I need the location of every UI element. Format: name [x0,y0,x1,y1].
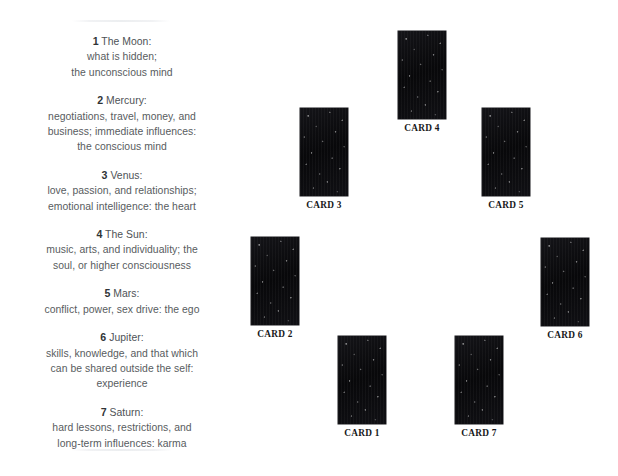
meaning-heading: 2 Mercury: [18,93,226,108]
tarot-card-slot[interactable]: CARD 1 [338,336,386,438]
meaning-heading: 1 The Moon: [18,34,226,49]
tarot-card-slot[interactable]: CARD 5 [482,108,530,210]
starfield-card-back-icon[interactable] [482,108,530,196]
meaning-title: Venus: [110,170,142,181]
tarot-card-slot[interactable]: CARD 6 [541,238,589,340]
meaning-description-line: the unconscious mind [18,65,226,80]
meaning-number: 5 [104,287,110,299]
starfield-card-back-icon[interactable] [398,31,446,119]
meaning-number: 2 [97,94,103,106]
tarot-spread-diagram: 1 The Moon:what is hidden;the unconsciou… [0,0,618,476]
starfield-card-back-icon[interactable] [251,237,299,325]
meaning-number: 6 [100,331,106,343]
tarot-card-slot[interactable]: CARD 3 [300,108,348,210]
card-label: CARD 5 [482,200,530,210]
meaning-entry: 2 Mercury:negotiations, travel, money, a… [18,93,226,155]
meaning-description-line: what is hidden; [18,49,226,64]
card-label: CARD 7 [455,428,503,438]
meaning-description-line: conflict, power, sex drive: the ego [18,302,226,317]
meaning-description-line: hard lessons, restrictions, and [18,420,226,435]
meaning-heading: 3 Venus: [18,168,226,183]
meaning-description-line: emotional intelligence: the heart [18,199,226,214]
card-meanings-panel: 1 The Moon:what is hidden;the unconsciou… [18,0,226,476]
meaning-title: Jupiter: [109,332,143,343]
card-label: CARD 6 [541,330,589,340]
meaning-entry: 7 Saturn:hard lessons, restrictions, and… [18,405,226,451]
meaning-entry: 6 Jupiter:skills, knowledge, and that wh… [18,330,226,392]
starfield-card-back-icon[interactable] [338,336,386,424]
meaning-description-line: skills, knowledge, and that which [18,346,226,361]
meaning-title: The Sun: [105,229,148,240]
card-label: CARD 1 [338,428,386,438]
meaning-description-line: business; immediate influences: [18,124,226,139]
meaning-title: Mercury: [106,95,147,106]
meaning-description-line: music, arts, and individuality; the [18,242,226,257]
meaning-title: The Moon: [101,36,151,47]
meaning-description-line: the conscious mind [18,139,226,154]
tarot-card-slot[interactable]: CARD 2 [251,237,299,339]
card-label: CARD 2 [251,329,299,339]
meaning-number: 4 [96,228,102,240]
meaning-number: 1 [93,35,99,47]
meaning-description-line: can be shared outside the self: [18,361,226,376]
card-label: CARD 3 [300,200,348,210]
top-divider [72,20,170,22]
meaning-number: 3 [102,169,108,181]
meaning-title: Saturn: [110,407,144,418]
meaning-heading: 4 The Sun: [18,227,226,242]
meaning-heading: 6 Jupiter: [18,330,226,345]
tarot-card-slot[interactable]: CARD 7 [455,336,503,438]
meaning-number: 7 [101,406,107,418]
meaning-title: Mars: [113,288,139,299]
card-spread-area: CARD 4CARD 3CARD 5CARD 2CARD 6CARD 1CARD… [230,0,618,476]
meaning-entry: 3 Venus:love, passion, and relationships… [18,168,226,214]
meaning-description-line: negotiations, travel, money, and [18,109,226,124]
meaning-description-line: experience [18,376,226,391]
bottom-divider [72,449,172,451]
tarot-card-slot[interactable]: CARD 4 [398,31,446,133]
meaning-description-line: soul, or higher consciousness [18,258,226,273]
meaning-entry: 5 Mars:conflict, power, sex drive: the e… [18,286,226,317]
card-label: CARD 4 [398,123,446,133]
meaning-description-line: love, passion, and relationships; [18,183,226,198]
meaning-heading: 7 Saturn: [18,405,226,420]
meaning-entry: 1 The Moon:what is hidden;the unconsciou… [18,34,226,80]
meanings-list: 1 The Moon:what is hidden;the unconsciou… [18,34,226,451]
starfield-card-back-icon[interactable] [541,238,589,326]
starfield-card-back-icon[interactable] [300,108,348,196]
starfield-card-back-icon[interactable] [455,336,503,424]
meaning-heading: 5 Mars: [18,286,226,301]
meaning-entry: 4 The Sun:music, arts, and individuality… [18,227,226,273]
